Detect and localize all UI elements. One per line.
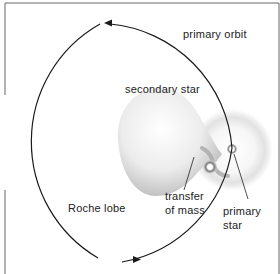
label-primary-line2: star [223, 219, 242, 232]
label-primary-orbit: primary orbit [183, 28, 247, 41]
orbit-arrow-top-icon [104, 20, 112, 27]
label-roche-lobe: Roche lobe [68, 202, 126, 215]
label-transfer-line2: of mass [165, 204, 205, 217]
label-secondary-star: secondary star [125, 83, 200, 96]
diagram-canvas: primary orbit secondary star Roche lobe … [0, 0, 280, 274]
accretion-spot [202, 159, 218, 175]
label-transfer-line1: transfer [165, 190, 204, 203]
label-primary-line1: primary [223, 205, 261, 218]
binary-star-diagram [0, 0, 280, 274]
